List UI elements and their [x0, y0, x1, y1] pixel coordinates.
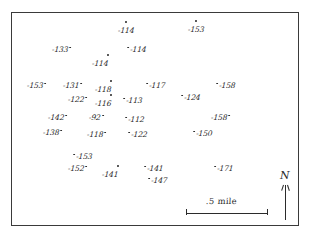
map-point-dot-icon: [123, 98, 125, 100]
north-arrow-head-right: [287, 185, 290, 191]
map-point-label: -150: [192, 129, 213, 138]
map-point-value: -133: [52, 45, 69, 54]
map-point-dot-icon: [81, 83, 83, 85]
map-point-value: -116: [95, 99, 112, 108]
map-point-value: -124: [184, 93, 201, 102]
map-point-label: -114: [118, 26, 135, 35]
map-point-label: -141: [143, 164, 164, 173]
map-point-label: -117: [145, 81, 166, 90]
map-point-label: -124: [180, 93, 201, 102]
map-point-dot-icon: [45, 83, 47, 85]
map-point-dot-icon: [216, 83, 218, 85]
north-arrow-shaft: [285, 185, 286, 220]
north-arrow-letter: N: [280, 169, 290, 182]
map-point-value: -171: [217, 164, 234, 173]
map-point-label: -152: [68, 164, 89, 173]
map-point-dot-icon: [117, 165, 119, 167]
map-point-label: -153: [188, 25, 205, 34]
map-point-dot-icon: [102, 115, 104, 117]
map-point-value: -118: [87, 130, 104, 139]
map-point-label: -138: [43, 128, 64, 137]
map-point-dot-icon: [70, 47, 72, 49]
map-point-label: -131: [63, 81, 84, 90]
map-point-value: -114: [92, 59, 109, 68]
map-point-label: -118: [87, 130, 108, 139]
map-point-label: -116: [95, 99, 112, 108]
map-point-dot-icon: [105, 132, 107, 134]
map-point-label: -153: [72, 152, 93, 161]
map-point-label: -122: [127, 130, 148, 139]
map-point-label: -112: [124, 115, 145, 124]
map-point-value: -117: [149, 81, 166, 90]
north-arrow-head-left: [281, 185, 284, 191]
map-point-value: -147: [151, 176, 168, 185]
map-point-label: -113: [122, 96, 143, 105]
map-point-dot-icon: [66, 115, 68, 117]
map-point-label: -92: [89, 113, 105, 122]
scale-bar-right-tick: [267, 209, 268, 215]
map-point-dot-icon: [144, 166, 146, 168]
map-point-dot-icon: [127, 47, 129, 49]
map-point-dot-icon: [148, 178, 150, 180]
map-point-value: -114: [118, 26, 135, 35]
map-point-dot-icon: [128, 132, 130, 134]
hand-drawn-map-figure: -114-153-133-114-114-153-131-118-117-158…: [0, 0, 312, 239]
map-point-value: -118: [95, 85, 112, 94]
map-point-value: -113: [126, 96, 143, 105]
map-point-value: -131: [63, 81, 80, 90]
map-point-dot-icon: [195, 20, 197, 22]
map-point-label: -114: [92, 59, 109, 68]
map-point-value: -158: [211, 113, 228, 122]
map-point-label: -118: [95, 85, 112, 94]
scale-bar-rule: [186, 213, 268, 214]
map-point-dot-icon: [110, 80, 112, 82]
scale-bar: [186, 205, 268, 217]
map-point-value: -150: [196, 129, 213, 138]
map-point-label: -142: [48, 113, 69, 122]
map-point-value: -138: [43, 128, 60, 137]
map-point-label: -153: [27, 81, 48, 90]
map-point-dot-icon: [86, 166, 88, 168]
map-point-value: -92: [89, 113, 101, 122]
map-point-dot-icon: [181, 95, 183, 97]
map-point-value: -141: [147, 164, 164, 173]
map-point-label: -158: [211, 113, 232, 122]
map-point-dot-icon: [229, 115, 231, 117]
map-point-label: -147: [147, 176, 168, 185]
map-point-value: -112: [128, 115, 145, 124]
map-point-dot-icon: [107, 54, 109, 56]
map-point-value: -158: [219, 81, 236, 90]
map-point-dot-icon: [73, 154, 75, 156]
map-point-label: -114: [126, 45, 147, 54]
map-point-label: -122: [68, 95, 89, 104]
map-point-dot-icon: [146, 83, 148, 85]
map-point-value: -153: [188, 25, 205, 34]
map-point-dot-icon: [125, 117, 127, 119]
map-point-value: -122: [68, 95, 85, 104]
map-point-value: -114: [130, 45, 147, 54]
map-point-dot-icon: [86, 97, 88, 99]
map-point-label: -158: [215, 81, 236, 90]
north-arrow-icon: N: [276, 171, 298, 221]
map-point-dot-icon: [125, 21, 127, 23]
map-point-value: -122: [131, 130, 148, 139]
map-point-value: -153: [27, 81, 44, 90]
map-point-value: -142: [48, 113, 65, 122]
map-point-dot-icon: [61, 130, 63, 132]
map-point-dot-icon: [214, 166, 216, 168]
map-point-label: -141: [102, 170, 119, 179]
map-point-value: -141: [102, 170, 119, 179]
map-point-dot-icon: [110, 94, 112, 96]
map-point-label: -171: [213, 164, 234, 173]
map-point-value: -152: [68, 164, 85, 173]
map-point-dot-icon: [193, 131, 195, 133]
map-point-label: -133: [52, 45, 73, 54]
map-point-value: -153: [76, 152, 93, 161]
